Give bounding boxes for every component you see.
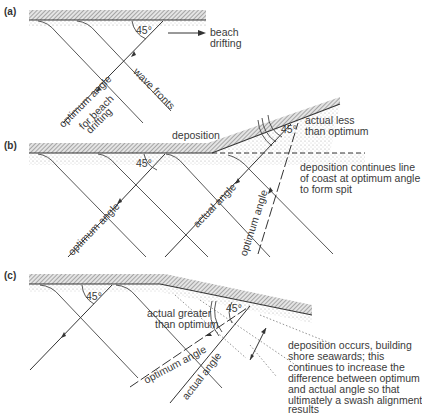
panel-label-c: (c) — [4, 270, 16, 281]
actual-greater-label-2: than optimum — [155, 319, 219, 330]
angle-label: 45° — [226, 303, 242, 314]
panel-c — [29, 274, 330, 403]
angle-label: 45° — [86, 291, 102, 302]
swash-note-7: results — [288, 406, 319, 412]
beach-drifting-label-2: drifting — [210, 38, 242, 49]
angle-label: 45° — [136, 25, 152, 36]
deposition-label: deposition — [172, 130, 220, 141]
panel-label-a: (a) — [4, 6, 16, 17]
beach-stipple — [29, 20, 206, 26]
actual-less-label-2: than optimum — [305, 126, 369, 137]
land-hatch — [29, 10, 206, 20]
angle-label: 45° — [136, 158, 152, 169]
panel-label-b: (b) — [4, 140, 17, 151]
angle-label: 45° — [281, 124, 297, 135]
panel-a — [29, 10, 206, 123]
spit-note-3: to form spit — [300, 184, 352, 195]
